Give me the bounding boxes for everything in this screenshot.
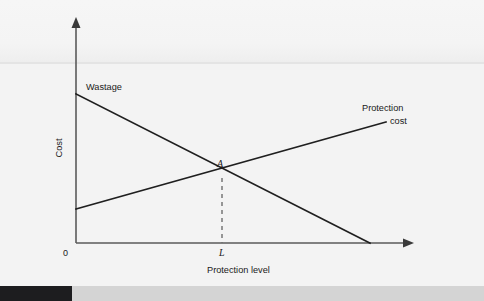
intersection-point-label: A [216, 158, 224, 169]
screenshot-root: Wastage Protection cost A L 0 Protection… [0, 0, 484, 301]
x-axis-arrowhead-icon [403, 239, 414, 248]
cost-vs-protection-level-chart: Wastage Protection cost A L 0 Protection… [0, 0, 484, 286]
x-tick-label-L: L [218, 247, 225, 258]
y-axis-arrowhead-icon [72, 17, 81, 28]
protection-cost-series-label-line2: cost [390, 116, 407, 126]
bottom-scroll-bar[interactable] [0, 286, 484, 301]
wastage-series-label: Wastage [86, 82, 122, 92]
bottom-scroll-bar-thumb[interactable] [0, 286, 72, 301]
protection-cost-line [76, 122, 386, 209]
y-axis-label: Cost [54, 138, 64, 157]
origin-label: 0 [63, 248, 68, 258]
x-axis-label: Protection level [207, 265, 270, 275]
protection-cost-series-label-line1: Protection [362, 103, 403, 113]
